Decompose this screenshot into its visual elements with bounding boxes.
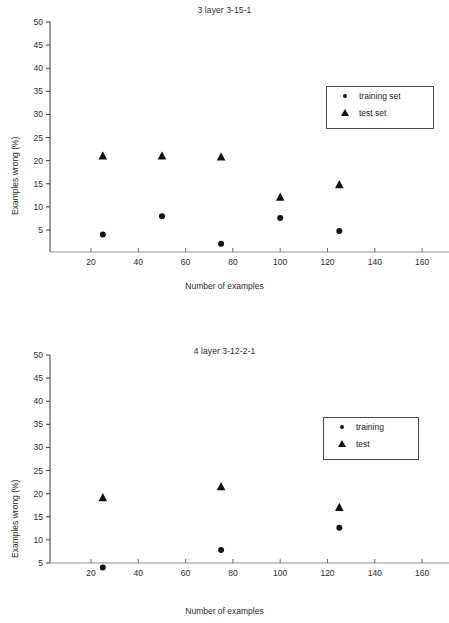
data-point-circle	[218, 241, 224, 247]
data-point-triangle	[217, 482, 226, 490]
data-point-circle	[218, 547, 224, 553]
legend-item-test[interactable]: test	[324, 435, 418, 452]
data-point-circle	[159, 213, 165, 219]
legend-label: test set	[359, 108, 386, 118]
x-tick-label: 100	[273, 568, 287, 578]
y-tick-label: 15	[34, 179, 44, 189]
data-point-triangle	[276, 192, 285, 200]
y-tick-label: 40	[34, 396, 44, 406]
data-point-circle	[336, 228, 342, 234]
plot-area-top: 510152025303540455020406080100120140160	[0, 0, 449, 290]
y-tick-label: 35	[34, 86, 44, 96]
data-point-triangle	[335, 503, 344, 511]
y-tick-label: 20	[34, 156, 44, 166]
y-tick-label: 50	[34, 350, 44, 360]
chart-panel-bottom: 4 layer 3-12-2-1 Examples wrong (%) 5101…	[0, 310, 449, 623]
x-tick-label: 100	[273, 257, 287, 267]
y-tick-label: 5	[38, 558, 43, 568]
triangle-marker-icon	[337, 109, 353, 116]
x-tick-label: 120	[320, 568, 334, 578]
circle-marker-icon	[334, 425, 350, 429]
y-tick-label: 5	[38, 225, 43, 235]
y-tick-label: 25	[34, 466, 44, 476]
y-tick-label: 30	[34, 442, 44, 452]
legend-item-test-set[interactable]: test set	[327, 104, 433, 121]
x-tick-label: 80	[228, 568, 238, 578]
x-tick-label: 120	[320, 257, 334, 267]
plot-area-bottom: 510152025303540455020406080100120140160	[0, 310, 449, 610]
data-point-triangle	[99, 493, 108, 501]
data-point-circle	[336, 525, 342, 531]
y-tick-label: 25	[34, 133, 44, 143]
data-point-circle	[100, 565, 106, 571]
y-tick-label: 45	[34, 40, 44, 50]
x-tick-label: 20	[86, 568, 96, 578]
legend-bottom[interactable]: training test	[323, 417, 419, 460]
x-axis-label-bottom: Number of examples	[0, 606, 449, 616]
y-tick-label: 10	[34, 202, 44, 212]
circle-marker-icon	[337, 94, 353, 98]
x-axis-label-top: Number of examples	[0, 281, 449, 291]
x-tick-label: 160	[415, 568, 429, 578]
y-tick-label: 20	[34, 489, 44, 499]
y-tick-label: 50	[34, 17, 44, 27]
data-point-triangle	[158, 151, 167, 159]
chart-panel-top: 3 layer 3-15-1 Examples wrong (%) 510152…	[0, 0, 449, 310]
y-tick-label: 30	[34, 109, 44, 119]
x-tick-label: 20	[86, 257, 96, 267]
legend-item-training-set[interactable]: training set	[327, 87, 433, 104]
data-point-triangle	[99, 151, 108, 159]
y-tick-label: 35	[34, 419, 44, 429]
x-tick-label: 60	[181, 257, 191, 267]
legend-label: training	[356, 422, 384, 432]
x-tick-label: 140	[368, 257, 382, 267]
figure-page: 3 layer 3-15-1 Examples wrong (%) 510152…	[0, 0, 449, 623]
data-point-triangle	[217, 152, 226, 160]
triangle-marker-icon	[334, 440, 350, 447]
x-tick-label: 40	[134, 257, 144, 267]
data-point-triangle	[335, 180, 344, 188]
legend-top[interactable]: training set test set	[326, 86, 434, 129]
y-tick-label: 15	[34, 512, 44, 522]
x-tick-label: 40	[134, 568, 144, 578]
x-tick-label: 80	[228, 257, 238, 267]
y-tick-label: 45	[34, 373, 44, 383]
x-tick-label: 160	[415, 257, 429, 267]
y-tick-label: 40	[34, 63, 44, 73]
data-point-circle	[277, 215, 283, 221]
y-tick-label: 10	[34, 535, 44, 545]
legend-label: training set	[359, 91, 401, 101]
x-tick-label: 140	[368, 568, 382, 578]
legend-label: test	[356, 439, 370, 449]
x-tick-label: 60	[181, 568, 191, 578]
legend-item-training[interactable]: training	[324, 418, 418, 435]
data-point-circle	[100, 232, 106, 238]
